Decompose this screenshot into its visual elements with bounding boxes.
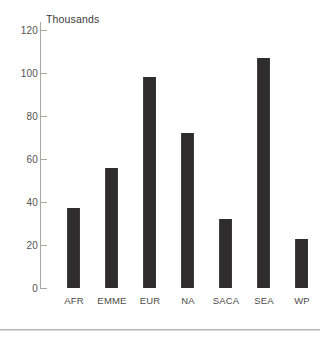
bar-afr <box>67 208 80 288</box>
x-axis-label-sea: SEA <box>245 295 283 306</box>
y-axis-tick-label: 0 <box>0 283 38 294</box>
bar-group-wp: WP <box>283 0 320 339</box>
bar-group-emme: EMME <box>93 0 131 339</box>
x-axis-label-wp: WP <box>283 295 320 306</box>
bar-na <box>181 133 194 288</box>
bar-sea <box>257 58 270 288</box>
x-axis-label-na: NA <box>169 295 207 306</box>
x-axis-label-emme: EMME <box>93 295 131 306</box>
bar-group-saca: SACA <box>207 0 245 339</box>
bar-group-afr: AFR <box>55 0 93 339</box>
bar-eur <box>143 77 156 288</box>
y-axis-tick-label: 80 <box>0 111 38 122</box>
y-axis-tick-label: 40 <box>0 197 38 208</box>
bar-group-sea: SEA <box>245 0 283 339</box>
x-axis-label-saca: SACA <box>207 295 245 306</box>
y-axis-tick-label: 60 <box>0 154 38 165</box>
bar-group-na: NA <box>169 0 207 339</box>
bar-saca <box>219 219 232 288</box>
bar-emme <box>105 168 118 288</box>
x-axis-label-afr: AFR <box>55 295 93 306</box>
bar-chart-figure: Thousands 020406080100120 AFREMMEEURNASA… <box>0 0 320 339</box>
bars-group: AFREMMEEURNASACASEAWP <box>40 0 320 339</box>
bar-group-eur: EUR <box>131 0 169 339</box>
bar-wp <box>295 239 308 288</box>
y-axis-tick-label: 120 <box>0 25 38 36</box>
page-separator-rule-shadow <box>0 330 320 331</box>
y-axis-tick-label: 20 <box>0 240 38 251</box>
y-axis-tick-label: 100 <box>0 68 38 79</box>
x-axis-label-eur: EUR <box>131 295 169 306</box>
